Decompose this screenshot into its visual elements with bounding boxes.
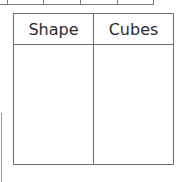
header-row: Shape Cubes bbox=[14, 14, 174, 45]
header-shape: Shape bbox=[14, 14, 94, 45]
partial-cell bbox=[81, 0, 118, 4]
shape-cubes-table: Shape Cubes bbox=[13, 13, 174, 165]
partial-left-border bbox=[1, 113, 2, 182]
partial-cell bbox=[44, 0, 81, 4]
partial-table-above bbox=[0, 0, 154, 5]
cubes-cell[interactable] bbox=[94, 45, 174, 165]
partial-cell bbox=[7, 0, 44, 4]
partial-cell bbox=[117, 0, 154, 4]
shape-cell[interactable] bbox=[14, 45, 94, 165]
header-cubes: Cubes bbox=[94, 14, 174, 45]
table-row bbox=[14, 45, 174, 165]
